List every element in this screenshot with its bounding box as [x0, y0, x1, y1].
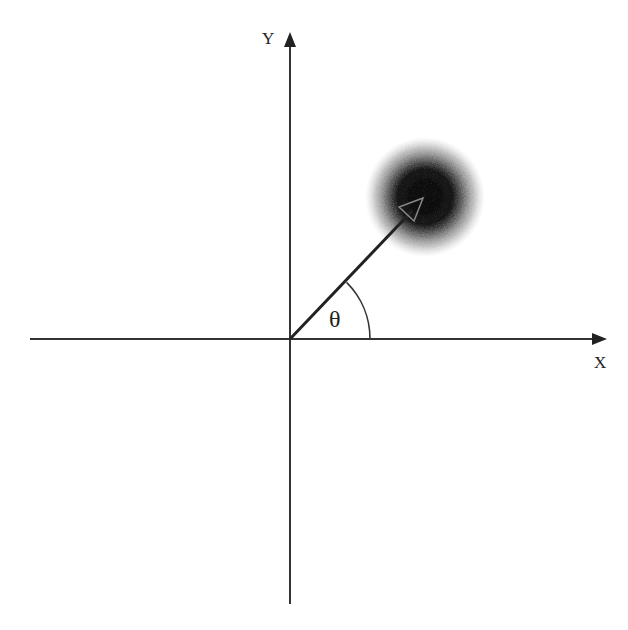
y-axis-label: Y [262, 29, 274, 49]
diagram-canvas: Y X θ [0, 0, 628, 630]
diagram-svg [0, 0, 628, 630]
x-axis-arrowhead-icon [592, 333, 607, 345]
y-axis-arrowhead-icon [284, 32, 296, 47]
angle-arc [347, 282, 370, 339]
vector-shaft [290, 211, 412, 339]
angle-theta-label: θ [329, 306, 341, 333]
x-axis-label: X [594, 353, 606, 373]
source-blob [365, 137, 485, 257]
